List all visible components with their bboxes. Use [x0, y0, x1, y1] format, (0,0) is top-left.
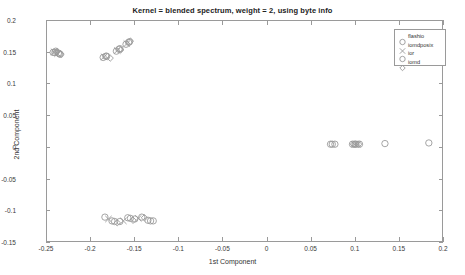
x-tick-label: -0.15	[127, 245, 142, 252]
x-tick-label: -0.25	[39, 245, 54, 252]
series-flashio	[50, 39, 432, 224]
y-tick-mark	[46, 52, 50, 53]
x-tick-label: -0.1	[173, 245, 184, 252]
legend-item-ior[interactable]: ior	[397, 49, 443, 57]
y-tick-mark	[439, 115, 443, 116]
y-tick-label: -0.1	[5, 207, 16, 214]
x-tick-mark	[399, 20, 400, 25]
x-axis-label: 1st Component	[0, 258, 465, 265]
x-tick-label: 0.1	[350, 245, 359, 252]
x-tick-mark	[355, 20, 356, 25]
x-tick-label: -0.2	[85, 245, 96, 252]
x-tick-mark	[90, 237, 91, 242]
chart-title: Kernel = blended spectrum, weight = 2, u…	[0, 6, 465, 15]
y-tick-mark	[46, 147, 50, 148]
y-tick-mark	[46, 210, 50, 211]
plot-area	[46, 20, 443, 242]
x-cross-icon	[397, 41, 408, 49]
x-tick-mark	[134, 237, 135, 242]
x-tick-label: 0.05	[304, 245, 317, 252]
y-tick-label: -0.15	[1, 239, 16, 246]
x-tick-mark	[443, 20, 444, 25]
x-tick-label: 0.15	[393, 245, 406, 252]
circle-icon	[397, 49, 408, 57]
y-tick-mark	[46, 179, 50, 180]
x-tick-mark	[178, 237, 179, 242]
x-tick-mark	[222, 237, 223, 242]
series-ior	[52, 39, 359, 225]
legend-label: ior	[408, 49, 414, 57]
data-point	[382, 140, 388, 146]
y-tick-mark	[439, 210, 443, 211]
legend-item-flashio[interactable]: flashio	[397, 32, 443, 40]
y-tick-mark	[439, 83, 443, 84]
data-point	[426, 140, 432, 146]
legend-label: flashio	[408, 32, 424, 40]
diamond-icon	[397, 58, 408, 66]
x-tick-mark	[134, 20, 135, 25]
y-tick-mark	[46, 242, 50, 243]
x-tick-mark	[222, 20, 223, 25]
x-tick-mark	[399, 237, 400, 242]
y-tick-mark	[439, 147, 443, 148]
legend-label: iomd	[408, 58, 420, 66]
x-tick-mark	[90, 20, 91, 25]
data-point	[120, 218, 126, 224]
x-tick-mark	[267, 20, 268, 25]
y-tick-mark	[439, 242, 443, 243]
legend[interactable]: flashioiomdposixioriomd	[394, 29, 446, 66]
legend-item-iomd[interactable]: iomd	[397, 58, 443, 66]
x-tick-label: 0.2	[438, 245, 447, 252]
y-tick-mark	[46, 83, 50, 84]
series-iomdposix	[51, 40, 361, 224]
x-tick-mark	[267, 237, 268, 242]
y-tick-label: 0.2	[7, 17, 16, 24]
x-tick-mark	[443, 237, 444, 242]
x-tick-mark	[355, 237, 356, 242]
y-axis-label: 2nd Component	[13, 75, 20, 195]
figure: Kernel = blended spectrum, weight = 2, u…	[0, 0, 465, 275]
y-tick-mark	[439, 179, 443, 180]
legend-item-iomdposix[interactable]: iomdposix	[397, 41, 443, 49]
x-tick-label: -0.05	[215, 245, 230, 252]
x-tick-mark	[311, 20, 312, 25]
y-tick-label: 0.15	[3, 48, 16, 55]
x-tick-mark	[46, 20, 47, 25]
legend-label: iomdposix	[408, 41, 433, 49]
x-tick-mark	[178, 20, 179, 25]
x-tick-mark	[46, 237, 47, 242]
circle-icon	[397, 32, 408, 40]
y-tick-mark	[46, 115, 50, 116]
scatter-data-layer	[47, 21, 442, 241]
series-iomd	[53, 38, 361, 226]
x-tick-mark	[311, 237, 312, 242]
x-tick-label: 0	[265, 245, 269, 252]
